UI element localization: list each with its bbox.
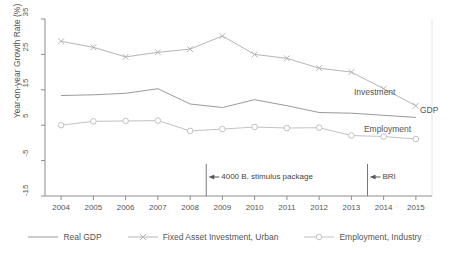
series-label-employment: Employment: [364, 124, 411, 134]
annotation-label: BRI: [383, 172, 396, 181]
legend-marker-line: [28, 232, 58, 242]
y-tick-label: -5: [21, 149, 30, 169]
legend-marker-x: [128, 232, 158, 242]
x-tick-label-2015: 2015: [398, 203, 434, 212]
x-tick-label-2007: 2007: [140, 203, 176, 212]
series-label-gdp: GDP: [420, 105, 438, 115]
legend-item-2[interactable]: Fixed Asset Investment, Urban: [128, 232, 279, 242]
legend-marker-circle: [304, 232, 334, 242]
x-tick-label-2008: 2008: [172, 203, 208, 212]
y-tick-label: 35: [21, 8, 30, 28]
x-tick-label-2011: 2011: [269, 203, 305, 212]
chart-legend: Real GDPFixed Asset Investment, UrbanEmp…: [0, 232, 450, 242]
chart-container: Year-on-year Growth Rate (%) 3525155-5-1…: [0, 0, 450, 255]
y-tick-label: 5: [21, 114, 30, 134]
x-tick-label-2012: 2012: [301, 203, 337, 212]
legend-label: Fixed Asset Investment, Urban: [163, 232, 279, 242]
annotation-label: 4000 B. stimulus package: [221, 172, 313, 181]
y-tick-label: 25: [21, 43, 30, 63]
legend-item-1[interactable]: Real GDP: [28, 232, 101, 242]
x-tick-label-2010: 2010: [237, 203, 273, 212]
x-tick-label-2014: 2014: [366, 203, 402, 212]
legend-label: Employment, Industry: [339, 232, 421, 242]
y-tick-label: 15: [21, 78, 30, 98]
legend-label: Real GDP: [63, 232, 101, 242]
x-tick-label-2006: 2006: [108, 203, 144, 212]
x-tick-label-2004: 2004: [43, 203, 79, 212]
x-tick-label-2005: 2005: [75, 203, 111, 212]
series-label-investment: Investment: [354, 87, 396, 97]
x-tick-label-2009: 2009: [204, 203, 240, 212]
x-tick-label-2013: 2013: [333, 203, 369, 212]
legend-item-3[interactable]: Employment, Industry: [304, 232, 421, 242]
y-tick-label: -15: [21, 185, 30, 205]
